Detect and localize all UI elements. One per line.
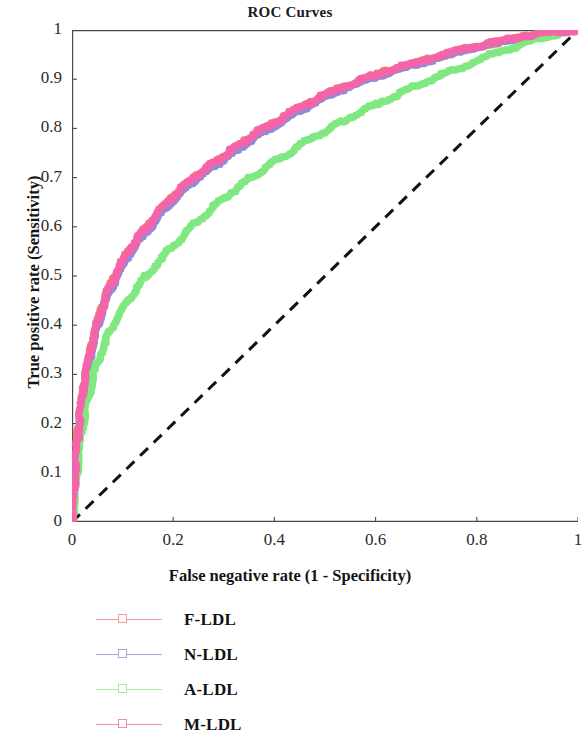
x-tick-label: 0 <box>49 530 95 550</box>
chart-legend: F-LDLN-LDLA-LDLM-LDL <box>96 602 396 742</box>
legend-line <box>96 724 162 726</box>
legend-item-label: A-LDL <box>184 680 238 700</box>
legend-marker-icon <box>96 613 162 627</box>
legend-square-icon <box>118 649 127 658</box>
legend-item-label: N-LDL <box>184 645 238 665</box>
legend-item-m-ldl[interactable]: M-LDL <box>96 707 396 742</box>
plot-area <box>72 30 578 522</box>
legend-line <box>96 654 162 656</box>
legend-square-icon <box>118 719 127 728</box>
x-tick-label: 0.8 <box>454 530 500 550</box>
legend-line <box>96 619 162 621</box>
legend-marker-icon <box>96 648 162 662</box>
y-axis-title: True positive rate (Sensitivity) <box>24 62 44 502</box>
legend-item-n-ldl[interactable]: N-LDL <box>96 637 396 672</box>
legend-item-label: M-LDL <box>184 715 242 735</box>
legend-item-a-ldl[interactable]: A-LDL <box>96 672 396 707</box>
x-axis-title: False negative rate (1 - Specificity) <box>0 566 580 586</box>
legend-marker-icon <box>96 683 162 697</box>
legend-marker-icon <box>96 718 162 732</box>
legend-square-icon <box>118 614 127 623</box>
x-tick-label: 0.6 <box>353 530 399 550</box>
x-tick-label: 0.2 <box>150 530 196 550</box>
x-tick-label: 0.4 <box>251 530 297 550</box>
chart-title: ROC Curves <box>0 4 580 21</box>
plot-canvas <box>72 30 578 522</box>
legend-item-label: F-LDL <box>184 610 236 630</box>
legend-item-f-ldl[interactable]: F-LDL <box>96 602 396 637</box>
legend-square-icon <box>118 684 127 693</box>
legend-line <box>96 689 162 691</box>
x-tick-label: 1 <box>555 530 586 550</box>
y-tick-label: 0 <box>14 511 62 531</box>
y-tick-label: 1 <box>14 19 62 39</box>
